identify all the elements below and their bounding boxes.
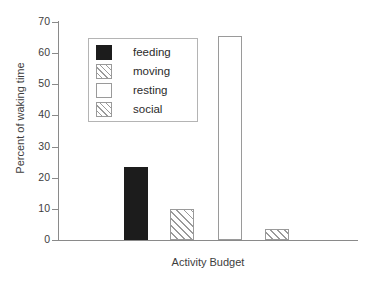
y-axis-tick: [52, 147, 58, 148]
chart-legend: feedingmovingrestingsocial: [88, 38, 198, 122]
y-axis-tick: [52, 53, 58, 54]
bar-social: [265, 229, 289, 240]
y-axis-tick: [52, 178, 58, 179]
y-axis-tick: [52, 84, 58, 85]
y-axis-tick: [52, 115, 58, 116]
y-axis-tick-label: 0: [4, 234, 50, 245]
y-axis-tick-label: 10: [4, 203, 50, 214]
legend-label: resting: [133, 85, 168, 97]
y-axis-tick-label: 40: [4, 109, 50, 120]
y-axis-tick-label: 50: [4, 78, 50, 89]
legend-swatch-moving: [96, 64, 112, 79]
bar-feeding: [124, 167, 148, 240]
legend-label: feeding: [133, 47, 171, 59]
legend-label: social: [133, 104, 162, 116]
x-axis-title: Activity Budget: [58, 256, 358, 268]
y-axis-tick-label: 70: [4, 16, 50, 27]
y-axis-title: Percent of waking time: [14, 28, 26, 208]
legend-item-social: social: [89, 100, 197, 119]
y-axis-tick: [52, 209, 58, 210]
legend-swatch-feeding: [96, 45, 112, 60]
legend-item-feeding: feeding: [89, 43, 197, 62]
bar-chart-figure: 010203040506070 feedingmovingrestingsoci…: [0, 0, 377, 282]
legend-item-moving: moving: [89, 62, 197, 81]
y-axis-tick-label: 60: [4, 47, 50, 58]
y-axis-tick: [52, 240, 58, 241]
bar-resting: [218, 36, 242, 240]
legend-swatch-social: [96, 102, 112, 117]
y-axis-tick-label: 30: [4, 141, 50, 152]
legend-item-resting: resting: [89, 81, 197, 100]
y-axis-tick: [52, 22, 58, 23]
legend-swatch-resting: [96, 83, 112, 98]
legend-label: moving: [133, 66, 170, 78]
y-axis-tick-label: 20: [4, 172, 50, 183]
bar-moving: [170, 209, 194, 240]
x-axis-line: [58, 240, 358, 241]
